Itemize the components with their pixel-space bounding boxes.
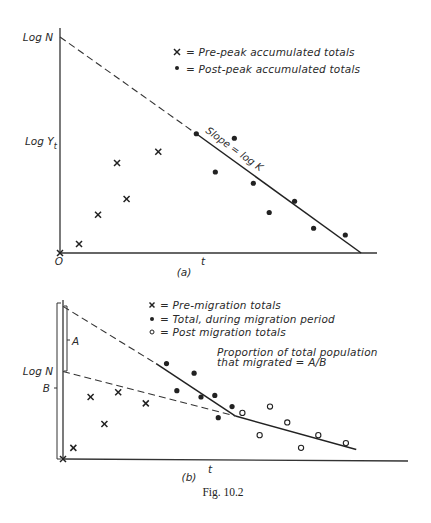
annotation-proportion-line2: that migrated = A/B bbox=[217, 356, 327, 368]
legend-dot-marker-icon bbox=[150, 317, 154, 321]
dot-marker-icon bbox=[267, 210, 272, 215]
panel-a: Log N Log Yt O t (a) Slope = log K = Pre… bbox=[23, 28, 377, 278]
dot-marker-icon bbox=[213, 169, 218, 174]
bracket-a bbox=[64, 306, 67, 371]
x-marker-icon bbox=[143, 400, 149, 406]
legend-during-migration-text: = Total, during migration period bbox=[160, 313, 335, 325]
legend-x-marker-icon bbox=[174, 49, 180, 55]
panel-b-legend: = Pre-migration totals = Total, during m… bbox=[150, 299, 336, 338]
circle-marker-icon bbox=[316, 433, 321, 438]
dot-marker-icon bbox=[343, 232, 348, 237]
dot-marker-icon bbox=[174, 388, 179, 393]
panel-a-log-n-label: Log N bbox=[23, 31, 53, 43]
x-marker-icon bbox=[95, 212, 101, 218]
panel-a-origin-label: O bbox=[55, 255, 63, 267]
figure-caption: Fig. 10.2 bbox=[202, 486, 243, 499]
panel-b-x-label: t bbox=[208, 463, 213, 475]
dot-marker-icon bbox=[292, 199, 297, 204]
panel-b-tag: (b) bbox=[182, 471, 197, 483]
x-marker-icon bbox=[115, 389, 121, 395]
legend-post-migration-text: = Post migration totals bbox=[160, 326, 286, 338]
circle-marker-icon bbox=[267, 404, 272, 409]
legend-dot-marker-icon bbox=[175, 66, 179, 70]
bracket-b-label: B bbox=[43, 382, 50, 394]
dot-marker-icon bbox=[311, 226, 316, 231]
trend-line bbox=[63, 372, 236, 417]
x-marker-icon bbox=[70, 445, 76, 451]
legend-circle-marker-icon bbox=[150, 330, 154, 334]
panel-a-slope-label: Slope = log K bbox=[204, 125, 266, 174]
dot-marker-icon bbox=[251, 181, 256, 186]
x-marker-icon bbox=[155, 149, 161, 155]
x-marker-icon bbox=[114, 160, 120, 166]
bracket-a-label: A bbox=[71, 335, 79, 347]
dot-marker-icon bbox=[192, 371, 197, 376]
dot-marker-icon bbox=[198, 394, 203, 399]
dot-marker-icon bbox=[194, 131, 199, 136]
x-marker-icon bbox=[88, 394, 94, 400]
dot-marker-icon bbox=[212, 393, 217, 398]
panel-a-x-label: t bbox=[201, 255, 206, 267]
dot-marker-icon bbox=[229, 404, 234, 409]
circle-marker-icon bbox=[285, 420, 290, 425]
trend-line bbox=[196, 134, 361, 253]
dot-marker-icon bbox=[216, 415, 221, 420]
panel-a-log-yt-label: Log Yt bbox=[25, 135, 58, 151]
x-marker-icon bbox=[124, 196, 130, 202]
legend-pre-migration-text: = Pre-migration totals bbox=[160, 299, 281, 311]
circle-marker-icon bbox=[343, 441, 348, 446]
panel-b: A B Log N t (b) = Pre-migration totals =… bbox=[23, 299, 408, 483]
panel-b-log-n-label: Log N bbox=[23, 365, 53, 377]
panel-b-x-axis bbox=[63, 459, 408, 461]
panel-a-legend: = Pre-peak accumulated totals = Post-pea… bbox=[174, 46, 361, 75]
bracket-b bbox=[57, 303, 61, 459]
legend-pre-peak-text: = Pre-peak accumulated totals bbox=[186, 46, 355, 58]
x-marker-icon bbox=[76, 241, 82, 247]
circle-marker-icon bbox=[240, 410, 245, 415]
figure-10-2: Log N Log Yt O t (a) Slope = log K = Pre… bbox=[0, 0, 431, 523]
circle-marker-icon bbox=[257, 433, 262, 438]
dot-marker-icon bbox=[232, 136, 237, 141]
legend-post-peak-text: = Post-peak accumulated totals bbox=[186, 63, 361, 75]
dot-marker-icon bbox=[164, 361, 169, 366]
trend-line bbox=[236, 416, 357, 449]
legend-x-marker-icon bbox=[150, 303, 155, 308]
x-marker-icon bbox=[101, 421, 107, 427]
circle-marker-icon bbox=[298, 445, 303, 450]
panel-a-tag: (a) bbox=[177, 266, 192, 278]
